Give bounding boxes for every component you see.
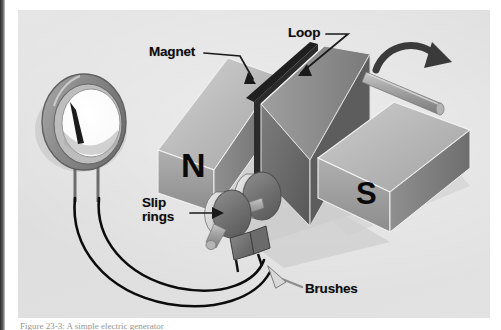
label-slip-rings: Slip rings xyxy=(142,196,188,224)
figure-root: Magnet Loop Slip rings Brushes N S Figur… xyxy=(0,0,501,330)
label-loop: Loop xyxy=(288,26,320,40)
figure-caption: Figure 23-3: A simple electric generator xyxy=(20,321,450,330)
generator-illustration xyxy=(18,10,490,318)
pole-label-north: N xyxy=(181,146,206,185)
pole-label-south: S xyxy=(356,176,377,212)
illustration-panel: Magnet Loop Slip rings Brushes N S xyxy=(18,10,490,318)
page-spine-shadow xyxy=(0,0,5,330)
galvanometer xyxy=(42,74,126,202)
label-magnet: Magnet xyxy=(149,45,195,59)
label-brushes: Brushes xyxy=(305,282,358,296)
rotation-arrow-icon xyxy=(376,42,452,70)
